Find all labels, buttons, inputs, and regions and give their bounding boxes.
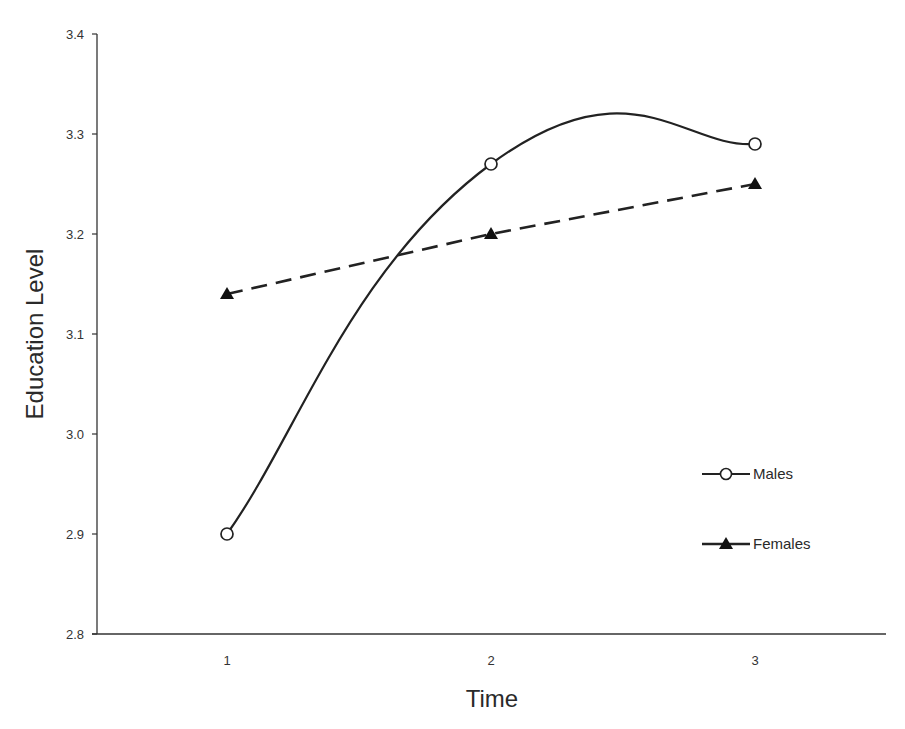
- y-tick-label: 2.9: [66, 527, 84, 542]
- circle-marker-icon: [221, 528, 233, 540]
- triangle-marker-icon: [748, 177, 762, 189]
- line-chart: 2.82.93.03.13.23.33.4 123 Education Leve…: [0, 0, 905, 729]
- y-tick-label: 2.8: [66, 627, 84, 642]
- legend-item-females: Females: [702, 535, 811, 552]
- x-tick-label: 1: [223, 653, 230, 668]
- legend-label-males: Males: [753, 465, 793, 482]
- legend-label-females: Females: [753, 535, 811, 552]
- y-axis-ticks: 2.82.93.03.13.23.33.4: [66, 27, 97, 642]
- circle-marker-icon: [485, 158, 497, 170]
- series-line-males: [227, 113, 755, 534]
- legend-item-males: Males: [702, 465, 793, 482]
- legend: Males Females: [702, 465, 811, 552]
- y-tick-label: 3.1: [66, 327, 84, 342]
- y-tick-label: 3.3: [66, 127, 84, 142]
- y-axis-title: Education Level: [21, 249, 48, 420]
- open-circle-marker-icon: [721, 469, 732, 480]
- x-axis-ticks: 123: [223, 653, 758, 668]
- y-tick-label: 3.0: [66, 427, 84, 442]
- circle-marker-icon: [749, 138, 761, 150]
- x-axis-title: Time: [466, 685, 518, 712]
- x-tick-label: 3: [751, 653, 758, 668]
- x-tick-label: 2: [487, 653, 494, 668]
- y-tick-label: 3.2: [66, 227, 84, 242]
- series-layer: [220, 113, 762, 540]
- y-tick-label: 3.4: [66, 27, 84, 42]
